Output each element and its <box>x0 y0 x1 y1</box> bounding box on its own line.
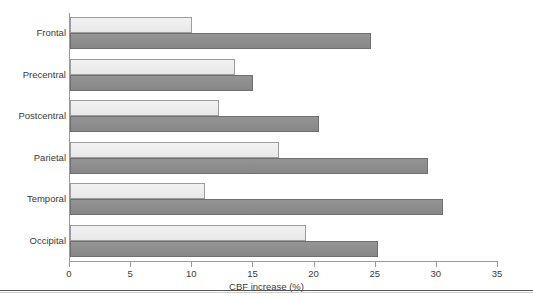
x-tick-0 <box>69 262 70 267</box>
bar-occipital-dark <box>70 241 378 257</box>
category-label-frontal: Frontal <box>36 27 66 38</box>
footer-rule-secondary <box>0 292 533 293</box>
bar-temporal-dark <box>70 199 443 215</box>
x-tick-label-15: 15 <box>247 268 258 279</box>
bar-postcentral-light <box>70 100 219 116</box>
category-label-occipital: Occipital <box>30 235 66 246</box>
x-tick-label-25: 25 <box>369 268 380 279</box>
x-tick-label-0: 0 <box>66 268 71 279</box>
x-tick-label-35: 35 <box>492 268 503 279</box>
x-tick-30 <box>436 262 437 267</box>
x-tick-25 <box>375 262 376 267</box>
x-tick-15 <box>252 262 253 267</box>
x-tick-label-5: 5 <box>127 268 132 279</box>
x-tick-35 <box>497 262 498 267</box>
footer-rule <box>0 290 533 291</box>
category-label-temporal: Temporal <box>27 193 66 204</box>
x-tick-label-10: 10 <box>186 268 197 279</box>
bar-parietal-light <box>70 142 279 158</box>
x-tick-20 <box>314 262 315 267</box>
category-label-postcentral: Postcentral <box>18 110 66 121</box>
bar-chart-figure: FrontalPrecentralPostcentralParietalTemp… <box>0 0 533 299</box>
bar-temporal-light <box>70 183 205 199</box>
bar-frontal-light <box>70 17 192 33</box>
x-tick-5 <box>130 262 131 267</box>
bar-occipital-light <box>70 225 306 241</box>
bar-precentral-light <box>70 59 235 75</box>
category-label-precentral: Precentral <box>23 69 66 80</box>
x-tick-label-20: 20 <box>308 268 319 279</box>
x-tick-label-30: 30 <box>431 268 442 279</box>
bar-postcentral-dark <box>70 116 319 132</box>
x-tick-10 <box>191 262 192 267</box>
bar-parietal-dark <box>70 158 428 174</box>
bar-frontal-dark <box>70 33 371 49</box>
x-axis-line <box>69 261 498 262</box>
bar-precentral-dark <box>70 75 253 91</box>
category-label-parietal: Parietal <box>34 152 66 163</box>
